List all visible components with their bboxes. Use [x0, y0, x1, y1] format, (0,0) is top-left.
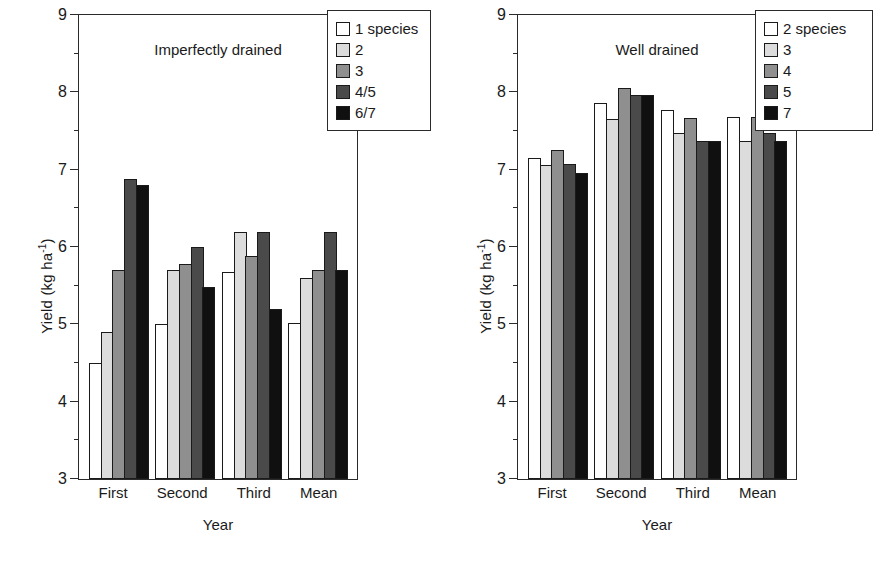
y-axis-tick-major	[509, 14, 518, 15]
legend-item: 3	[336, 60, 420, 81]
y-axis-title: Yield (kg ha-1)	[37, 238, 55, 334]
bar	[708, 141, 721, 479]
legend-item: 4	[764, 60, 862, 81]
y-axis-title-exponent: -1	[37, 243, 48, 252]
legend-label: 7	[783, 105, 791, 120]
y-axis-tick-major	[509, 478, 518, 479]
legend-swatch-icon	[336, 22, 350, 36]
y-axis-tick-label: 4	[497, 394, 506, 410]
legend-label: 4	[783, 63, 791, 78]
y-axis-tick-major	[70, 169, 79, 170]
legend-label: 3	[355, 63, 363, 78]
y-axis-tick-label: 9	[497, 7, 506, 23]
x-axis-title-left: Year	[78, 516, 358, 533]
bar	[641, 95, 654, 479]
y-axis-tick-major	[70, 91, 79, 92]
y-axis-title-exponent: -1	[476, 243, 487, 252]
bar-group	[661, 15, 720, 479]
legend-well-drained: 2 species3457	[755, 10, 873, 131]
x-axis-tick-label: Third	[676, 484, 710, 501]
legend-label: 5	[783, 84, 791, 99]
y-axis-tick-minor	[74, 285, 79, 286]
y-axis-tick-major	[70, 14, 79, 15]
y-axis-tick-minor	[513, 53, 518, 54]
x-axis-title-right: Year	[517, 516, 797, 533]
x-axis-tick-labels-right: FirstSecondThirdMean	[517, 484, 797, 501]
bar-group	[89, 15, 148, 479]
y-axis-tick-minor	[513, 285, 518, 286]
y-axis-title-close: )	[38, 238, 55, 243]
y-axis-tick-major	[70, 401, 79, 402]
y-axis-tick-minor	[74, 130, 79, 131]
legend-label: 2	[355, 42, 363, 57]
legend-label: 4/5	[355, 84, 376, 99]
y-axis-tick-label: 7	[58, 162, 67, 178]
y-axis-tick-label: 5	[58, 316, 67, 332]
x-axis-tick-label: First	[538, 484, 567, 501]
y-axis-tick-label: 9	[58, 7, 67, 23]
bar	[575, 173, 588, 479]
bar-group	[528, 15, 587, 479]
y-axis-tick-label: 6	[58, 239, 67, 255]
legend-item: 1 species	[336, 18, 420, 39]
legend-item: 2 species	[764, 18, 862, 39]
y-axis-tick-major	[509, 91, 518, 92]
y-axis-tick-minor	[74, 207, 79, 208]
legend-label: 6/7	[355, 105, 376, 120]
bar-group	[594, 15, 653, 479]
bar	[774, 141, 787, 479]
legend-item: 7	[764, 102, 862, 123]
y-axis-tick-minor	[513, 130, 518, 131]
bar-group	[222, 15, 281, 479]
y-axis-tick-minor	[513, 439, 518, 440]
bar	[335, 270, 348, 479]
legend-item: 5	[764, 81, 862, 102]
x-axis-tick-label: Mean	[739, 484, 777, 501]
legend-item: 2	[336, 39, 420, 60]
y-axis-tick-minor	[513, 207, 518, 208]
legend-label: 2 species	[783, 21, 846, 36]
y-axis-tick-major	[70, 478, 79, 479]
legend-label: 3	[783, 42, 791, 57]
y-axis-tick-major	[509, 246, 518, 247]
y-axis-tick-minor	[74, 53, 79, 54]
panel-imperfectly-drained: Yield (kg ha-1) Imperfectly drained 3456…	[0, 0, 439, 572]
legend-swatch-icon	[764, 106, 778, 120]
y-axis-tick-label: 4	[58, 394, 67, 410]
plot-area-imperfectly-drained: Imperfectly drained 3456789	[78, 14, 358, 480]
bar	[269, 309, 282, 479]
x-axis-tick-label: Second	[596, 484, 647, 501]
y-axis-tick-major	[70, 246, 79, 247]
y-axis-tick-label: 3	[497, 471, 506, 487]
y-axis-tick-minor	[74, 439, 79, 440]
legend-label: 1 species	[355, 21, 418, 36]
legend-swatch-icon	[764, 64, 778, 78]
bar	[202, 287, 215, 479]
y-axis-tick-major	[509, 323, 518, 324]
bar	[136, 185, 149, 479]
y-axis-tick-label: 8	[58, 84, 67, 100]
legend-swatch-icon	[764, 22, 778, 36]
x-axis-tick-label: Mean	[300, 484, 338, 501]
y-axis-tick-major	[70, 323, 79, 324]
x-axis-tick-label: Second	[157, 484, 208, 501]
bar-groups-imperfectly-drained	[79, 15, 357, 479]
legend-swatch-icon	[336, 64, 350, 78]
y-axis-tick-label: 5	[497, 316, 506, 332]
y-axis-tick-label: 8	[497, 84, 506, 100]
legend-swatch-icon	[336, 43, 350, 57]
legend-swatch-icon	[764, 43, 778, 57]
y-axis-tick-minor	[74, 362, 79, 363]
legend-item: 6/7	[336, 102, 420, 123]
y-axis-tick-major	[509, 401, 518, 402]
y-axis-tick-major	[509, 169, 518, 170]
y-axis-title: Yield (kg ha-1)	[476, 238, 494, 334]
figure-two-panel-bar-charts: Yield (kg ha-1) Imperfectly drained 3456…	[0, 0, 879, 572]
x-axis-tick-label: Third	[237, 484, 271, 501]
y-axis-tick-label: 7	[497, 162, 506, 178]
legend-swatch-icon	[764, 85, 778, 99]
legend-swatch-icon	[336, 106, 350, 120]
bar-group	[155, 15, 214, 479]
legend-item: 3	[764, 39, 862, 60]
y-axis-title-base: Yield (kg ha	[477, 253, 494, 334]
